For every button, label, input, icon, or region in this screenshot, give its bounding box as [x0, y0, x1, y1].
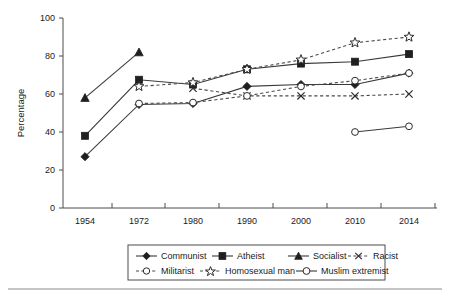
y-axis-label: Percentage	[15, 89, 26, 138]
open-circle-marker	[244, 93, 251, 100]
filled-diamond-marker	[243, 82, 251, 90]
open-star-marker	[404, 32, 414, 41]
chart-figure: Percentage 100 80 60 40 20 0	[0, 0, 450, 293]
filled-square-marker	[406, 51, 413, 58]
legend-label: Atheist	[237, 251, 265, 261]
open-star-marker	[350, 38, 360, 47]
open-circle-marker	[136, 100, 143, 107]
filled-triangle-marker	[135, 48, 143, 56]
x-tick-label: 2014	[399, 216, 419, 226]
legend-label: Socialist	[313, 251, 347, 261]
open-circle-marker	[406, 123, 413, 130]
series-homosexual-man	[134, 32, 414, 91]
legend-label: Muslim extremist	[321, 266, 389, 276]
x-axis-labels: 1954 1972 1980 1990 2000 2010 2014	[75, 216, 419, 226]
x-tick-label: 2000	[291, 216, 311, 226]
filled-square-marker	[352, 58, 359, 65]
x-axis-ticks	[112, 203, 435, 208]
y-tick-label: 20	[45, 165, 55, 175]
series-muslim-extremist	[352, 123, 413, 136]
legend-label: Militarist	[161, 266, 194, 276]
x-tick-label: 1990	[237, 216, 257, 226]
series-path	[355, 126, 409, 132]
y-axis-ticks: 100 80 60 40 20 0	[40, 13, 63, 213]
y-tick-label: 0	[50, 203, 55, 213]
legend-label: Homosexual man	[225, 266, 295, 276]
x-tick-label: 2010	[345, 216, 365, 226]
legend-label: Communist	[161, 251, 207, 261]
x-marker	[405, 90, 412, 97]
series-militarist	[136, 70, 413, 107]
series-path	[139, 73, 409, 103]
open-circle-marker	[190, 99, 197, 106]
open-circle-marker	[298, 83, 305, 90]
y-tick-label: 60	[45, 89, 55, 99]
x-tick-label: 1972	[129, 216, 149, 226]
y-tick-label: 40	[45, 127, 55, 137]
open-circle-icon	[303, 268, 310, 275]
open-circle-marker	[406, 70, 413, 77]
legend-entry-communist: Communist	[136, 251, 207, 261]
open-circle-icon	[143, 268, 149, 274]
series-layer	[81, 32, 414, 161]
x-tick-label: 1980	[183, 216, 203, 226]
series-path	[85, 52, 139, 98]
legend-entry-atheist: Atheist	[212, 251, 265, 261]
series-socialist	[81, 48, 143, 101]
filled-square-marker	[82, 132, 89, 139]
open-circle-marker	[352, 77, 359, 84]
open-circle-marker	[352, 129, 359, 136]
series-path	[139, 37, 409, 86]
y-tick-label: 100	[40, 13, 55, 23]
y-tick-label: 80	[45, 51, 55, 61]
x-tick-label: 1954	[75, 216, 95, 226]
series-communist	[81, 69, 413, 161]
filled-square-icon	[219, 253, 226, 260]
legend-label: Racist	[373, 251, 399, 261]
